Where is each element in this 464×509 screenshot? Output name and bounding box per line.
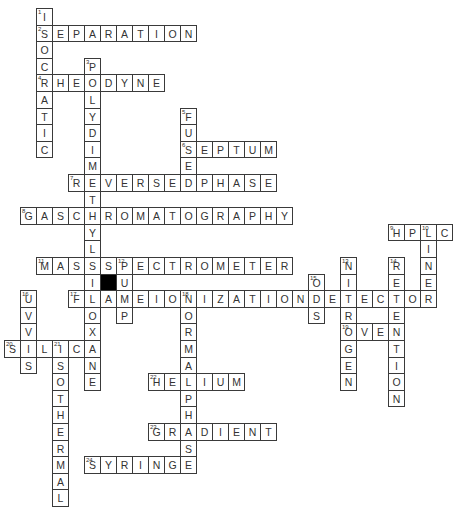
crossword-cell[interactable]: E	[372, 323, 389, 341]
crossword-cell[interactable]: P	[180, 390, 197, 408]
crossword-cell[interactable]: O	[36, 41, 53, 59]
crossword-cell[interactable]: M	[212, 257, 229, 275]
crossword-cell[interactable]: I	[340, 274, 357, 292]
crossword-cell[interactable]: E	[52, 25, 69, 43]
crossword-cell[interactable]: E	[84, 373, 101, 391]
crossword-cell[interactable]: M	[228, 373, 245, 391]
crossword-cell[interactable]: E	[164, 373, 181, 391]
crossword-cell[interactable]: R	[420, 290, 437, 308]
crossword-cell[interactable]: 12P	[116, 257, 133, 275]
crossword-cell[interactable]: N	[388, 323, 405, 341]
crossword-cell[interactable]: O	[276, 290, 293, 308]
crossword-cell[interactable]: O	[84, 74, 101, 92]
crossword-cell[interactable]: 11M	[36, 257, 53, 275]
crossword-cell[interactable]: D	[84, 124, 101, 142]
crossword-cell[interactable]: N	[148, 456, 165, 474]
crossword-cell[interactable]: N	[180, 25, 197, 43]
crossword-cell[interactable]: S	[100, 257, 117, 275]
crossword-cell[interactable]: S	[308, 307, 325, 325]
crossword-cell[interactable]: C	[68, 207, 85, 225]
crossword-cell[interactable]: 21I	[52, 340, 69, 358]
crossword-cell[interactable]: L	[84, 240, 101, 258]
crossword-cell[interactable]: V	[100, 174, 117, 192]
crossword-cell[interactable]: E	[228, 423, 245, 441]
crossword-cell[interactable]: P	[196, 174, 213, 192]
crossword-cell[interactable]: A	[228, 290, 245, 308]
crossword-cell[interactable]: M	[52, 456, 69, 474]
crossword-cell[interactable]: R	[100, 207, 117, 225]
crossword-cell[interactable]: E	[148, 74, 165, 92]
crossword-cell[interactable]: T	[164, 207, 181, 225]
crossword-cell[interactable]: E	[132, 257, 149, 275]
crossword-cell[interactable]: N	[388, 390, 405, 408]
crossword-cell[interactable]: 15O	[308, 274, 325, 292]
crossword-cell[interactable]: 4R	[36, 74, 53, 92]
crossword-cell[interactable]: A	[228, 207, 245, 225]
crossword-cell[interactable]: H	[84, 207, 101, 225]
crossword-cell[interactable]: Y	[276, 207, 293, 225]
crossword-cell[interactable]: D	[180, 174, 197, 192]
crossword-cell[interactable]: I	[132, 456, 149, 474]
crossword-cell[interactable]: C	[436, 224, 453, 242]
crossword-cell[interactable]: 5F	[180, 108, 197, 126]
crossword-cell[interactable]: N	[420, 257, 437, 275]
crossword-cell[interactable]: C	[36, 58, 53, 76]
crossword-cell[interactable]: 10L	[420, 224, 437, 242]
crossword-cell[interactable]: O	[404, 290, 421, 308]
crossword-cell[interactable]: O	[180, 307, 197, 325]
crossword-cell[interactable]: N	[244, 423, 261, 441]
crossword-cell[interactable]: I	[196, 290, 213, 308]
crossword-cell[interactable]: A	[180, 357, 197, 375]
crossword-cell[interactable]: P	[68, 25, 85, 43]
crossword-cell[interactable]: I	[36, 124, 53, 142]
crossword-cell[interactable]: Z	[212, 290, 229, 308]
crossword-cell[interactable]: E	[324, 290, 341, 308]
crossword-cell[interactable]: T	[84, 191, 101, 209]
crossword-cell[interactable]: V	[356, 323, 373, 341]
crossword-cell[interactable]: S	[52, 207, 69, 225]
crossword-cell[interactable]: T	[132, 25, 149, 43]
crossword-cell[interactable]: U	[212, 373, 229, 391]
crossword-cell[interactable]: R	[180, 323, 197, 341]
crossword-cell[interactable]: T	[228, 141, 245, 159]
crossword-cell[interactable]: N	[132, 74, 149, 92]
crossword-cell[interactable]: E	[180, 157, 197, 175]
crossword-cell[interactable]: O	[196, 257, 213, 275]
crossword-cell[interactable]: M	[84, 157, 101, 175]
crossword-cell[interactable]: 19O	[340, 323, 357, 341]
crossword-cell[interactable]: 18N	[180, 290, 197, 308]
crossword-cell[interactable]: O	[116, 207, 133, 225]
crossword-cell[interactable]: A	[228, 174, 245, 192]
crossword-cell[interactable]: A	[148, 207, 165, 225]
crossword-cell[interactable]: 3P	[84, 58, 101, 76]
crossword-cell[interactable]: A	[180, 423, 197, 441]
crossword-cell[interactable]: E	[388, 307, 405, 325]
crossword-cell[interactable]: A	[52, 257, 69, 275]
crossword-cell[interactable]: R	[132, 174, 149, 192]
crossword-cell[interactable]: M	[180, 340, 197, 358]
crossword-cell[interactable]: 7R	[68, 174, 85, 192]
crossword-cell[interactable]: V	[20, 307, 37, 325]
crossword-cell[interactable]: N	[84, 357, 101, 375]
crossword-cell[interactable]: R	[164, 423, 181, 441]
crossword-cell[interactable]: L	[84, 91, 101, 109]
crossword-cell[interactable]: P	[116, 307, 133, 325]
crossword-cell[interactable]: P	[244, 207, 261, 225]
crossword-cell[interactable]: C	[372, 290, 389, 308]
crossword-cell[interactable]: M	[116, 290, 133, 308]
crossword-cell[interactable]: P	[404, 224, 421, 242]
crossword-cell[interactable]: 13N	[340, 257, 357, 275]
crossword-cell[interactable]: R	[180, 257, 197, 275]
crossword-cell[interactable]: Y	[84, 108, 101, 126]
crossword-cell[interactable]: S	[180, 440, 197, 458]
crossword-cell[interactable]: I	[260, 290, 277, 308]
crossword-cell[interactable]: E	[180, 456, 197, 474]
crossword-cell[interactable]: 23G	[148, 423, 165, 441]
crossword-cell[interactable]: E	[68, 74, 85, 92]
crossword-cell[interactable]: H	[52, 74, 69, 92]
crossword-cell[interactable]: Y	[116, 74, 133, 92]
crossword-cell[interactable]: E	[132, 290, 149, 308]
crossword-cell[interactable]: A	[52, 473, 69, 491]
crossword-cell[interactable]: M	[132, 207, 149, 225]
crossword-cell[interactable]: T	[340, 290, 357, 308]
